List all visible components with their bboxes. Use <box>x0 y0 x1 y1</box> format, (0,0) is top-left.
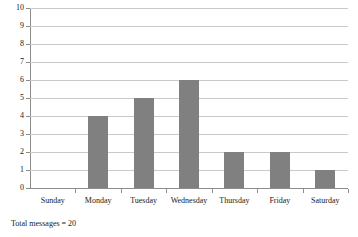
x-axis-tick-label: Tuesday <box>121 196 166 206</box>
y-axis-tick-mark <box>26 116 30 117</box>
total-messages-caption: Total messages = 20 <box>11 219 76 229</box>
bar-chart-figure: 109876543210 SundayMondayTuesdayWednesda… <box>0 0 358 237</box>
plot-area <box>30 8 348 188</box>
bar <box>315 170 335 188</box>
gridline <box>30 62 348 63</box>
x-axis-tick-mark <box>257 189 258 193</box>
y-axis-tick-label: 3 <box>0 130 24 138</box>
y-axis-tick-label: 6 <box>0 76 24 84</box>
y-axis-tick-mark <box>26 152 30 153</box>
y-axis-tick-label: 5 <box>0 94 24 102</box>
bar <box>270 152 290 188</box>
y-axis-tick-mark <box>26 170 30 171</box>
gridline <box>30 8 348 9</box>
y-axis-tick-mark <box>26 134 30 135</box>
x-axis-tick-label: Sunday <box>30 196 75 206</box>
y-axis-tick-mark <box>26 62 30 63</box>
y-axis-tick-mark <box>26 80 30 81</box>
y-axis-tick-mark <box>26 188 30 189</box>
gridline <box>30 26 348 27</box>
bar <box>179 80 199 188</box>
y-axis-tick-label: 2 <box>0 148 24 156</box>
x-axis-tick-label: Friday <box>257 196 302 206</box>
bar <box>134 98 154 188</box>
y-axis-tick-mark <box>26 26 30 27</box>
y-axis-tick-label: 1 <box>0 166 24 174</box>
y-axis-tick-mark <box>26 8 30 9</box>
x-axis-tick-label: Thursday <box>212 196 257 206</box>
bar <box>224 152 244 188</box>
x-axis-tick-mark <box>303 189 304 193</box>
y-axis-tick-label: 7 <box>0 58 24 66</box>
y-axis-tick-labels: 109876543210 <box>0 0 28 237</box>
y-axis-tick-label: 9 <box>0 22 24 30</box>
y-axis-tick-label: 4 <box>0 112 24 120</box>
y-axis-tick-label: 8 <box>0 40 24 48</box>
gridline <box>30 44 348 45</box>
x-axis-tick-label: Monday <box>75 196 120 206</box>
x-axis-tick-labels: SundayMondayTuesdayWednesdayThursdayFrid… <box>30 196 348 210</box>
x-axis-tick-mark <box>348 189 349 193</box>
x-axis-tick-mark <box>75 189 76 193</box>
y-axis-tick-label: 10 <box>0 4 24 12</box>
x-axis-tick-mark <box>121 189 122 193</box>
x-axis-tick-mark <box>212 189 213 193</box>
gridline <box>30 188 348 189</box>
y-axis-tick-label: 0 <box>0 184 24 192</box>
y-axis-tick-mark <box>26 98 30 99</box>
x-axis-tick-label: Saturday <box>303 196 348 206</box>
bar <box>88 116 108 188</box>
y-axis-tick-mark <box>26 44 30 45</box>
x-axis-tick-mark <box>166 189 167 193</box>
x-axis-tick-label: Wednesday <box>166 196 211 206</box>
